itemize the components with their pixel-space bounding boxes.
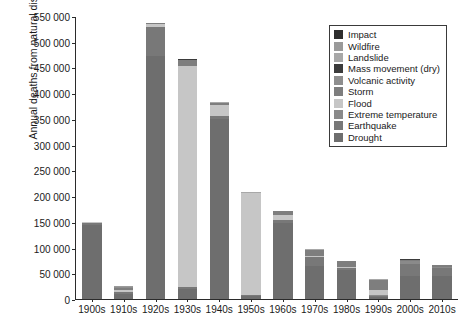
- y-tick-mark: [72, 171, 75, 172]
- y-tick-mark: [72, 274, 75, 275]
- legend-item[interactable]: Earthquake: [334, 120, 440, 131]
- bar-slot[interactable]: 1970s: [299, 17, 331, 299]
- y-tick-label: 100 000: [34, 243, 75, 254]
- x-tick-label: 1900s: [78, 304, 105, 315]
- legend-item[interactable]: Mass movement (dry): [334, 63, 440, 74]
- legend-item[interactable]: Drought: [334, 132, 440, 143]
- legend-swatch-icon: [334, 99, 343, 108]
- legend-item[interactable]: Wildfire: [334, 40, 440, 51]
- bar-slot[interactable]: 1950s: [235, 17, 267, 299]
- bar-segment-earthquake[interactable]: [305, 257, 324, 265]
- y-tick-mark: [72, 68, 75, 69]
- bar-segment-drought[interactable]: [400, 276, 419, 299]
- y-tick-label: 150 000: [34, 217, 75, 228]
- bar-slot[interactable]: 1940s: [203, 17, 235, 299]
- legend-item[interactable]: Extreme temperature: [334, 109, 440, 120]
- legend-label: Volcanic activity: [348, 75, 415, 86]
- bar-segment-flood[interactable]: [241, 193, 260, 294]
- legend-item[interactable]: Impact: [334, 29, 440, 40]
- x-tick-mark: [315, 299, 316, 302]
- bar-segment-earthquake[interactable]: [400, 264, 419, 276]
- legend-swatch-icon: [334, 42, 343, 51]
- legend-label: Storm: [348, 86, 373, 97]
- stacked-bar[interactable]: [305, 249, 324, 299]
- stacked-bar[interactable]: [210, 102, 229, 299]
- x-tick-label: 1930s: [174, 304, 201, 315]
- x-tick-mark: [442, 299, 443, 302]
- bar-segment-drought[interactable]: [305, 266, 324, 299]
- stacked-bar[interactable]: [400, 259, 419, 299]
- legend-label: Mass movement (dry): [348, 63, 440, 74]
- y-tick-mark: [72, 146, 75, 147]
- y-tick-label: 400 000: [34, 89, 75, 100]
- legend-label: Drought: [348, 132, 382, 143]
- y-tick-label: 500 000: [34, 37, 75, 48]
- bar-segment-drought[interactable]: [337, 270, 356, 299]
- stacked-bar[interactable]: [432, 265, 451, 299]
- y-tick-mark: [72, 43, 75, 44]
- chart-legend: ImpactWildfireLandslideMass movement (dr…: [329, 25, 447, 147]
- y-tick-mark: [72, 249, 75, 250]
- bar-segment-drought[interactable]: [178, 289, 197, 299]
- bar-slot[interactable]: 1930s: [171, 17, 203, 299]
- legend-swatch-icon: [334, 121, 343, 130]
- legend-swatch-icon: [334, 64, 343, 73]
- x-tick-label: 2010s: [428, 304, 455, 315]
- stacked-bar[interactable]: [114, 286, 133, 299]
- bar-segment-drought[interactable]: [146, 56, 165, 299]
- bar-slot[interactable]: 1960s: [267, 17, 299, 299]
- y-tick-mark: [72, 223, 75, 224]
- legend-swatch-icon: [334, 87, 343, 96]
- bar-slot[interactable]: 1900s: [76, 17, 108, 299]
- legend-item[interactable]: Volcanic activity: [334, 75, 440, 86]
- legend-item[interactable]: Landslide: [334, 52, 440, 63]
- bar-segment-flood[interactable]: [178, 66, 197, 286]
- x-tick-mark: [156, 299, 157, 302]
- x-axis-line: [75, 299, 458, 300]
- legend-swatch-icon: [334, 30, 343, 39]
- bar-segment-storm[interactable]: [178, 60, 197, 67]
- legend-label: Landslide: [348, 52, 389, 63]
- legend-item[interactable]: Flood: [334, 97, 440, 108]
- x-tick-mark: [251, 299, 252, 302]
- legend-label: Impact: [348, 29, 377, 40]
- x-tick-mark: [347, 299, 348, 302]
- stacked-bar[interactable]: [337, 261, 356, 299]
- stacked-bar[interactable]: [178, 59, 197, 299]
- legend-label: Flood: [348, 98, 372, 109]
- stacked-bar[interactable]: [82, 222, 101, 299]
- bar-segment-drought[interactable]: [210, 119, 229, 299]
- y-tick-label: 200 000: [34, 192, 75, 203]
- stacked-bar[interactable]: [369, 279, 388, 299]
- x-tick-label: 1950s: [237, 304, 264, 315]
- y-tick-label: 350 000: [34, 114, 75, 125]
- bar-segment-drought[interactable]: [82, 225, 101, 299]
- legend-label: Earthquake: [348, 120, 397, 131]
- x-tick-label: 1920s: [142, 304, 169, 315]
- stacked-bar[interactable]: [273, 211, 292, 299]
- bar-segment-drought[interactable]: [432, 276, 451, 299]
- x-tick-label: 1970s: [301, 304, 328, 315]
- legend-swatch-icon: [334, 133, 343, 142]
- bar-segment-earthquake[interactable]: [432, 268, 451, 276]
- x-tick-mark: [187, 299, 188, 302]
- x-tick-label: 1940s: [206, 304, 233, 315]
- bar-slot[interactable]: 1920s: [140, 17, 172, 299]
- legend-label: Extreme temperature: [348, 109, 437, 120]
- y-tick-mark: [72, 17, 75, 18]
- bar-slot[interactable]: 1910s: [108, 17, 140, 299]
- stacked-bar[interactable]: [241, 192, 260, 299]
- bar-segment-storm[interactable]: [369, 280, 388, 290]
- x-tick-label: 1990s: [365, 304, 392, 315]
- x-tick-label: 2000s: [397, 304, 424, 315]
- x-tick-mark: [124, 299, 125, 302]
- y-tick-mark: [72, 120, 75, 121]
- bar-segment-drought[interactable]: [273, 223, 292, 299]
- stacked-bar[interactable]: [146, 23, 165, 299]
- x-tick-label: 1980s: [333, 304, 360, 315]
- x-tick-mark: [283, 299, 284, 302]
- y-tick-label: 250 000: [34, 166, 75, 177]
- legend-item[interactable]: Storm: [334, 86, 440, 97]
- bar-segment-flood[interactable]: [210, 105, 229, 115]
- bar-segment-earthquake[interactable]: [146, 27, 165, 56]
